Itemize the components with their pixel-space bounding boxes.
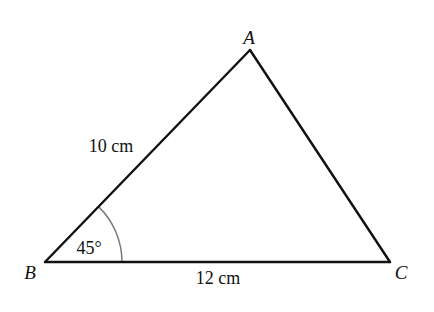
- vertex-label-c: C: [395, 262, 408, 283]
- background: [0, 0, 434, 312]
- vertex-label-a: A: [241, 27, 255, 48]
- triangle-diagram: A B C 10 cm 12 cm 45°: [0, 0, 434, 312]
- side-ab-length-label: 10 cm: [89, 136, 134, 156]
- vertex-label-b: B: [24, 262, 36, 283]
- side-bc-length-label: 12 cm: [196, 268, 241, 288]
- angle-b-label: 45°: [76, 238, 101, 258]
